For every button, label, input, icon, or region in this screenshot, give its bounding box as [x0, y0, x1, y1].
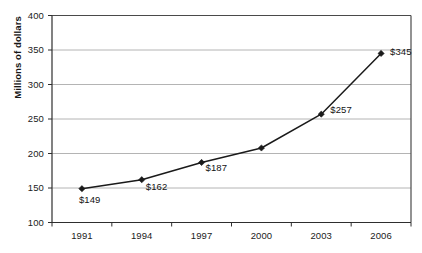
data-point-label: $149	[79, 194, 101, 205]
data-series-line	[82, 53, 381, 188]
data-point-marker[interactable]	[258, 145, 264, 151]
chart-figure: Millions of dollars 10015020025030035040…	[0, 0, 422, 253]
data-point-marker[interactable]	[139, 177, 145, 183]
data-point-label: $345	[390, 46, 412, 57]
data-point-marker[interactable]	[79, 186, 85, 192]
plot-area	[0, 0, 422, 253]
data-point-marker[interactable]	[198, 159, 204, 165]
data-point-label: $257	[330, 104, 352, 115]
data-point-label: $162	[146, 181, 168, 192]
data-point-label: $187	[206, 162, 228, 173]
